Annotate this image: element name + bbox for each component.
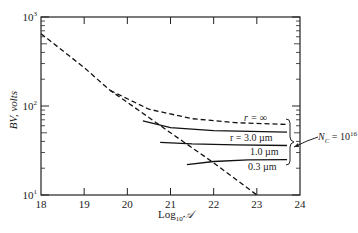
- arrowhead-icon: [294, 143, 299, 147]
- label-r-infinity: r = ∞: [244, 112, 267, 123]
- axes: 18192021222324101102103: [23, 10, 307, 210]
- x-tick-label: 19: [79, 198, 91, 210]
- y-axis-label: BV, volts: [7, 91, 19, 129]
- x-tick-label: 22: [208, 198, 219, 210]
- x-axis-label: Log10𝒜: [158, 208, 197, 223]
- x-tick-label: 24: [295, 198, 307, 210]
- label-r-3um: r = 3.0 µm: [230, 132, 273, 143]
- x-tick-label: 18: [36, 198, 48, 210]
- y-tick-label: 103: [23, 10, 38, 23]
- chart: 18192021222324101102103 BV, volts Log10𝒜…: [0, 0, 358, 233]
- x-tick-label: 23: [251, 198, 263, 210]
- nc-annotation: NC = 1016: [317, 130, 357, 145]
- x-tick-label: 20: [122, 198, 134, 210]
- label-r-03um: 0.3 µm: [248, 161, 277, 172]
- nc-sup: 16: [350, 130, 358, 138]
- nc-eq: = 10: [329, 131, 350, 142]
- x-axis-label-symbol: 𝒜: [183, 208, 197, 220]
- series-line-0: [41, 34, 257, 195]
- label-r-1um: 1.0 µm: [250, 146, 279, 157]
- brace: [286, 119, 294, 165]
- y-tick-label: 102: [23, 99, 38, 112]
- x-axis-label-main: Log: [158, 208, 176, 220]
